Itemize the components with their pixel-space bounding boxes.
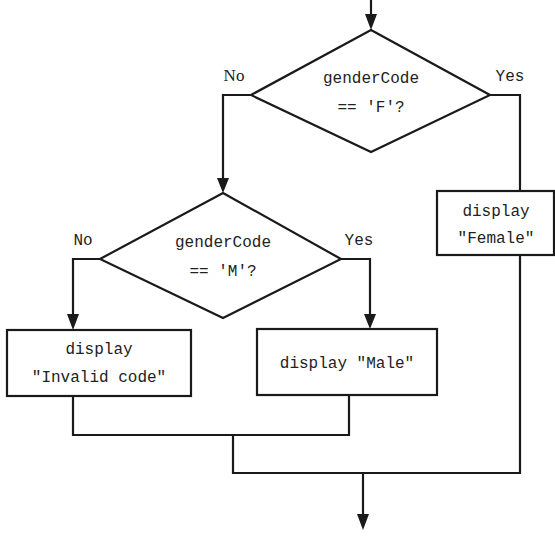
arrowhead-d2-yes-icon xyxy=(364,314,376,329)
connector-d1-no xyxy=(223,95,251,180)
process-invalid-line1: display xyxy=(65,341,133,359)
process-invalid-line2: "Invalid code" xyxy=(32,369,166,387)
decision-m-line2: == 'M'? xyxy=(189,263,256,281)
decision-f-line1: genderCode xyxy=(323,70,419,88)
arrowhead-d2-no-icon xyxy=(67,314,79,330)
decision-f-line2: == 'F'? xyxy=(337,99,404,117)
connector-inner-merge xyxy=(73,395,349,435)
exit-arrowhead-icon xyxy=(357,514,369,530)
decision-f-no-label: No xyxy=(224,66,245,85)
process-male-line1: display "Male" xyxy=(280,355,414,373)
arrowhead-d1-no-icon xyxy=(217,178,229,193)
decision-m-no-label: No xyxy=(73,232,92,250)
decision-diamond-f xyxy=(251,30,490,152)
flowchart-canvas: genderCode == 'F'? No Yes display "Femal… xyxy=(0,0,555,554)
connector-d2-no xyxy=(73,259,100,316)
decision-m-yes-label: Yes xyxy=(345,232,374,250)
decision-diamond-m xyxy=(100,193,341,318)
entry-arrowhead-icon xyxy=(365,14,377,30)
decision-f-yes-label: Yes xyxy=(496,68,525,86)
process-female-line1: display xyxy=(462,203,530,221)
connector-d1-yes xyxy=(490,95,520,191)
connector-d2-yes xyxy=(341,259,370,316)
process-female-line2: "Female" xyxy=(458,230,535,248)
decision-m-line1: genderCode xyxy=(175,234,271,252)
